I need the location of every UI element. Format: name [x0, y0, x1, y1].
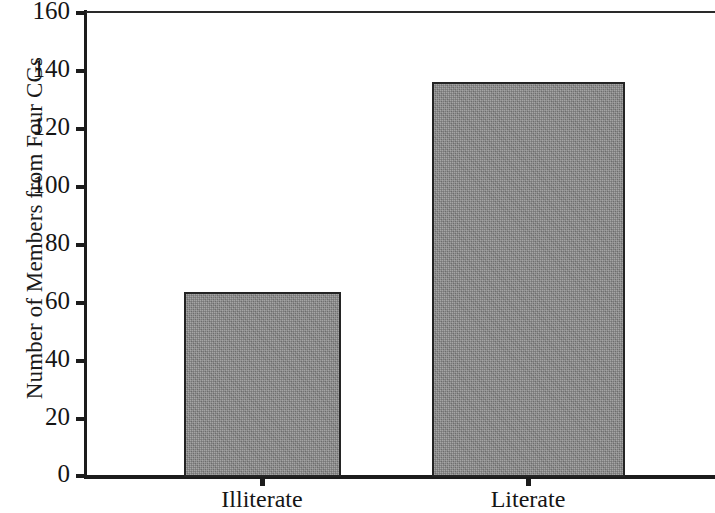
- bar-illiterate[interactable]: [184, 292, 341, 477]
- y-tick-label-80: 80: [6, 230, 70, 255]
- bar-chart-figure: Number of Members from Four CGs 160 140 …: [0, 0, 715, 513]
- y-tick-label-160: 160: [6, 0, 70, 23]
- y-tick-mark-40: [76, 359, 86, 363]
- y-tick-label-0: 0: [6, 461, 70, 486]
- y-tick-mark-20: [76, 417, 86, 421]
- y-tick-mark-0: [76, 474, 86, 478]
- y-tick-mark-140: [76, 69, 86, 73]
- y-tick-label-20: 20: [6, 404, 70, 429]
- bar-literate[interactable]: [432, 82, 625, 477]
- y-tick-label-60: 60: [6, 288, 70, 313]
- y-tick-mark-80: [76, 243, 86, 247]
- y-tick-label-40: 40: [6, 346, 70, 371]
- x-tick-label-literate: Literate: [428, 485, 628, 513]
- plot-top-border: [86, 11, 715, 13]
- y-tick-mark-120: [76, 127, 86, 131]
- y-tick-mark-60: [76, 301, 86, 305]
- y-tick-label-100: 100: [6, 172, 70, 197]
- y-tick-mark-100: [76, 185, 86, 189]
- x-tick-label-illiterate: Illiterate: [162, 485, 362, 513]
- y-tick-mark-160: [76, 11, 86, 15]
- y-tick-label-140: 140: [6, 56, 70, 81]
- y-tick-label-120: 120: [6, 114, 70, 139]
